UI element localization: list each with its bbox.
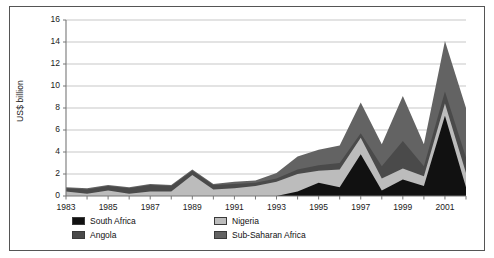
legend-label-angola: Angola (90, 230, 116, 240)
figure-container: US$ billion 0246810121416 19831985198719… (0, 0, 494, 258)
legend-item-sub-saharan-africa: Sub-Saharan Africa (214, 230, 306, 240)
legend-swatch-sub-saharan-africa (214, 231, 227, 239)
legend-label-south-africa: South Africa (90, 216, 136, 226)
legend-item-nigeria: Nigeria (214, 216, 259, 226)
legend-swatch-nigeria (214, 217, 227, 225)
legend-label-nigeria: Nigeria (232, 216, 259, 226)
chart-legend: South Africa Angola Nigeria Sub-Saharan … (72, 216, 452, 246)
legend-swatch-south-africa (72, 217, 85, 225)
legend-swatch-angola (72, 231, 85, 239)
legend-item-south-africa: South Africa (72, 216, 136, 226)
legend-label-sub-saharan-africa: Sub-Saharan Africa (232, 230, 306, 240)
legend-item-angola: Angola (72, 230, 116, 240)
